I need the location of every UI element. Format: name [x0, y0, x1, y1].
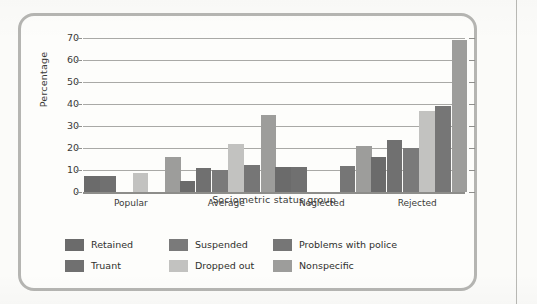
bar: [419, 111, 435, 192]
y-tick-mark: [469, 170, 475, 171]
legend-swatch: [65, 239, 84, 251]
bar: [228, 144, 244, 192]
y-tick-mark: [76, 38, 82, 39]
bar: [165, 157, 181, 192]
y-tick-mark: [469, 192, 475, 193]
bar: [196, 168, 212, 192]
figure-inner: Percentage 010203040506070 PopularAverag…: [21, 16, 474, 288]
y-tick-mark: [469, 148, 475, 149]
y-tick-mark: [469, 82, 475, 83]
plot-area: PopularAverageNeglectedRejected: [83, 38, 465, 192]
bar: [212, 170, 228, 192]
bar: [435, 106, 451, 192]
legend-item: Truant: [65, 260, 169, 272]
y-tick-mark: [469, 104, 475, 105]
bar: [387, 140, 403, 192]
legend-swatch: [273, 260, 292, 272]
bar: [403, 148, 419, 192]
legend-label: Dropped out: [195, 260, 254, 271]
legend-item: Suspended: [169, 239, 273, 251]
bars-layer: [83, 38, 465, 192]
bar: [261, 115, 277, 192]
legend-swatch: [169, 260, 188, 272]
y-axis-title: Percentage: [38, 20, 49, 140]
legend-swatch: [169, 239, 188, 251]
legend-label: Truant: [91, 260, 121, 271]
bar: [371, 157, 387, 192]
y-tick-mark: [76, 60, 82, 61]
bar: [291, 167, 307, 192]
page-column-rule: [516, 0, 517, 304]
legend-label: Nonspecific: [299, 260, 354, 271]
y-tick-mark: [469, 126, 475, 127]
legend-item: Nonspecific: [273, 260, 423, 272]
y-tick-mark: [76, 192, 82, 193]
bar: [100, 176, 116, 193]
figure-frame: Percentage 010203040506070 PopularAverag…: [18, 13, 477, 291]
y-tick-mark: [76, 148, 82, 149]
bar: [340, 166, 356, 192]
y-tick-mark: [76, 104, 82, 105]
legend-label: Retained: [91, 239, 133, 250]
legend-item: Problems with police: [273, 239, 423, 251]
bar: [244, 165, 260, 193]
chart-legend: RetainedSuspendedProblems with policeTru…: [65, 234, 455, 276]
bar: [452, 40, 468, 192]
bar: [180, 181, 196, 192]
y-tick-mark: [76, 126, 82, 127]
bar: [84, 176, 100, 193]
y-tick-mark: [76, 170, 82, 171]
bar: [356, 146, 372, 192]
y-tick-mark: [469, 60, 475, 61]
legend-item: Retained: [65, 239, 169, 251]
legend-swatch: [273, 239, 292, 251]
bar: [133, 173, 149, 192]
legend-item: Dropped out: [169, 260, 273, 272]
y-tick-mark: [469, 38, 475, 39]
y-axis-tick-labels: 010203040506070: [53, 38, 79, 192]
plot-wrapper: Percentage 010203040506070 PopularAverag…: [21, 16, 480, 212]
legend-label: Problems with police: [299, 239, 397, 250]
bar: [275, 167, 291, 192]
legend-swatch: [65, 260, 84, 272]
y-tick-mark: [76, 82, 82, 83]
legend-label: Suspended: [195, 239, 248, 250]
x-axis-title: Sociometric status group: [83, 194, 465, 205]
